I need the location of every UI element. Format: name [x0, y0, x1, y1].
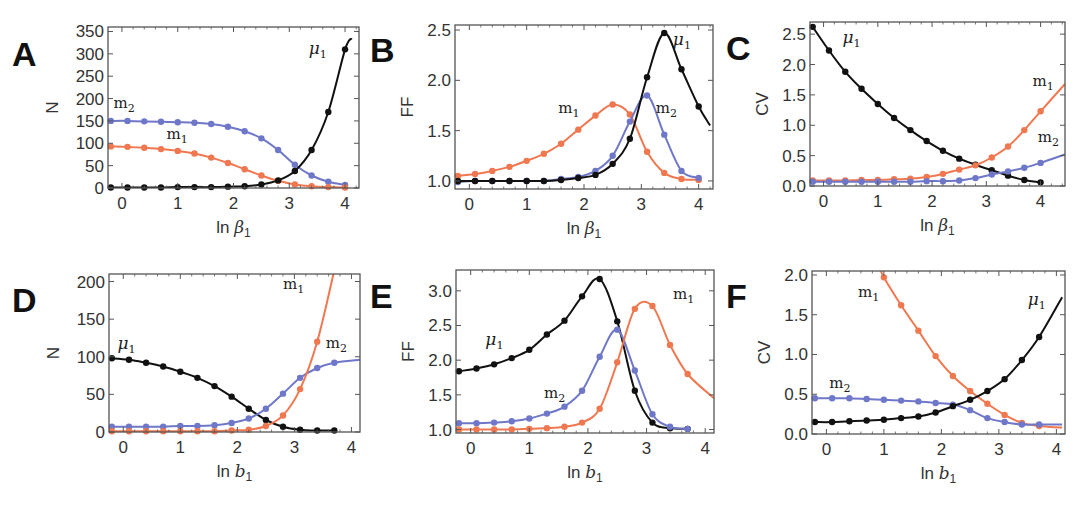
data-point — [940, 171, 946, 177]
data-point — [314, 339, 320, 345]
data-point — [898, 302, 904, 308]
panel-letter: E — [370, 277, 393, 315]
data-point — [881, 416, 887, 422]
data-point — [898, 397, 904, 403]
data-point — [561, 424, 567, 430]
data-point — [1001, 376, 1007, 382]
data-point — [972, 175, 978, 181]
x-axis-label: ln β1 — [216, 217, 251, 240]
x-tick-label: 4 — [340, 194, 349, 213]
x-axis-label: ln β1 — [567, 218, 602, 241]
data-point — [1001, 412, 1007, 418]
figure-canvas: A01234050100150200250300350ln β1Nm2m1μ1B… — [0, 0, 1088, 508]
x-tick-label: 3 — [285, 194, 294, 213]
x-tick-label: 4 — [347, 438, 356, 457]
data-point — [1021, 127, 1027, 133]
x-tick-label: 3 — [994, 440, 1003, 459]
data-point — [175, 148, 181, 154]
panel-letter: F — [726, 277, 747, 315]
data-point — [614, 359, 620, 365]
x-tick-label: 1 — [176, 438, 185, 457]
x-axis-label: ln b1 — [217, 461, 253, 484]
data-point — [280, 390, 286, 396]
data-point — [575, 126, 581, 132]
data-point — [292, 168, 298, 174]
data-point — [126, 428, 132, 434]
data-point — [263, 405, 269, 411]
x-axis-label: ln b1 — [567, 462, 603, 485]
data-point — [124, 144, 130, 150]
x-tick-label: 1 — [522, 195, 531, 214]
curve-mu1 — [459, 278, 688, 429]
series-label-m1: m1 — [673, 285, 694, 306]
panel-d: D01234050100150200ln b1Nμ1m1m2 — [12, 270, 360, 484]
data-point — [898, 415, 904, 421]
data-point — [160, 363, 166, 369]
data-point — [241, 166, 247, 172]
data-point — [561, 317, 567, 323]
x-tick-label: 2 — [233, 438, 242, 457]
series-label-m1: m1 — [558, 99, 579, 120]
data-point — [506, 178, 512, 184]
y-tick-label: 0 — [96, 423, 105, 442]
data-point — [984, 388, 990, 394]
y-tick-label: 2.0 — [782, 56, 806, 75]
data-point — [509, 418, 515, 424]
x-tick-label: 0 — [822, 440, 831, 459]
data-point — [950, 403, 956, 409]
data-point — [592, 112, 598, 118]
curve-mu1 — [813, 27, 1041, 183]
data-point — [228, 427, 234, 433]
data-point — [614, 318, 620, 324]
data-point — [863, 396, 869, 402]
series-label-m1: m1 — [167, 125, 188, 146]
data-point — [644, 92, 650, 98]
data-point — [1001, 419, 1007, 425]
data-point — [208, 154, 214, 160]
data-point — [826, 179, 832, 185]
y-tick-label: 0 — [95, 179, 104, 198]
y-tick-label: 1.5 — [782, 86, 806, 105]
data-point — [297, 375, 303, 381]
data-point — [678, 168, 684, 174]
curve-m2 — [112, 360, 360, 427]
data-point — [1037, 160, 1043, 166]
data-point — [1019, 421, 1025, 427]
data-point — [596, 354, 602, 360]
y-tick-label: 1.5 — [428, 386, 452, 405]
y-tick-label: 1.0 — [428, 421, 452, 440]
data-point — [331, 360, 337, 366]
data-point — [292, 181, 298, 187]
data-point — [472, 178, 478, 184]
data-point — [967, 397, 973, 403]
data-point — [863, 417, 869, 423]
y-tick-label: 50 — [85, 157, 104, 176]
data-point — [263, 417, 269, 423]
series-label-m2: m2 — [544, 384, 565, 405]
x-tick-label: 1 — [873, 192, 882, 211]
curve-m1 — [459, 302, 714, 430]
x-axis-label: ln β1 — [920, 215, 955, 238]
x-tick-label: 4 — [1036, 192, 1045, 211]
data-point — [1021, 165, 1027, 171]
data-point — [509, 426, 515, 432]
data-point — [1005, 168, 1011, 174]
data-point — [923, 178, 929, 184]
y-tick-label: 2.5 — [782, 25, 806, 44]
data-point — [124, 118, 130, 124]
data-point — [609, 153, 615, 159]
data-point — [126, 357, 132, 363]
y-tick-label: 50 — [86, 385, 105, 404]
data-point — [225, 183, 231, 189]
y-tick-label: 2.0 — [784, 266, 808, 285]
data-point — [208, 121, 214, 127]
y-axis-label: FF — [398, 97, 417, 118]
x-axis-label: ln b1 — [921, 463, 957, 486]
data-point — [325, 109, 331, 115]
x-tick-label: 0 — [119, 438, 128, 457]
data-point — [667, 424, 673, 430]
data-point — [558, 177, 564, 183]
data-point — [491, 361, 497, 367]
data-point — [579, 293, 585, 299]
data-point — [472, 171, 478, 177]
